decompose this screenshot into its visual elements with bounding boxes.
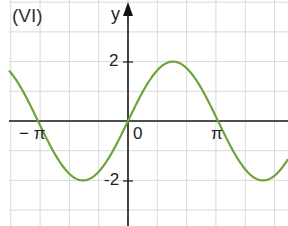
y-tick-label-neg2: -2 bbox=[104, 171, 119, 188]
y-tick-label-2: 2 bbox=[109, 52, 118, 69]
x-tick-label-neg-pi: − π bbox=[19, 125, 45, 142]
y-axis-arrow-icon bbox=[123, 2, 133, 16]
y-axis-label: y bbox=[111, 5, 120, 23]
origin-label: 0 bbox=[133, 125, 142, 142]
grid-lines bbox=[9, 0, 288, 226]
panel-label: (VI) bbox=[12, 6, 43, 25]
sine-graph bbox=[0, 0, 288, 226]
x-tick-label-pi: π bbox=[211, 125, 223, 142]
